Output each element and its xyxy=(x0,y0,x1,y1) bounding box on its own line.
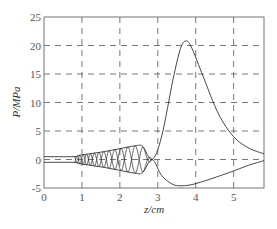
x-tick-label: 0 xyxy=(41,191,47,203)
x-tick-label: 4 xyxy=(193,191,199,203)
y-tick-label: 5 xyxy=(36,125,42,137)
y-tick-label: 15 xyxy=(30,68,42,80)
x-tick-label: 1 xyxy=(79,191,85,203)
x-tick-label: 5 xyxy=(231,191,237,203)
y-tick-label: 10 xyxy=(30,97,42,109)
x-axis-label: z/cm xyxy=(143,203,164,215)
data-series xyxy=(44,41,264,186)
x-tick-labels: 012345 xyxy=(41,191,237,203)
y-tick-label: -5 xyxy=(32,182,42,194)
y-tick-label: 20 xyxy=(30,40,42,52)
y-tick-label: 0 xyxy=(36,154,42,166)
x-tick-label: 2 xyxy=(117,191,123,203)
y-tick-label: 25 xyxy=(30,11,42,23)
pressure-chart: -50510152025 012345 z/cm P/MPa xyxy=(0,0,277,229)
series-line xyxy=(44,41,264,160)
y-tick-labels: -50510152025 xyxy=(30,11,42,194)
x-tick-label: 3 xyxy=(155,191,161,203)
y-axis-label: P/MPa xyxy=(10,86,22,119)
